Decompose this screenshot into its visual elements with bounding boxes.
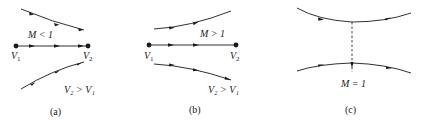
streamline-top <box>21 9 84 30</box>
v2-label: V2 <box>83 50 93 63</box>
arrow-icon <box>30 82 36 86</box>
point-v1 <box>14 44 19 49</box>
v1-label: V1 <box>144 50 154 63</box>
arrow-icon <box>193 43 199 47</box>
mach-label: M < 1 <box>27 29 53 40</box>
v1-label: V1 <box>11 50 21 63</box>
panel-b: M > 1 V1 V2 V₂ > V₁ (b) <box>144 11 240 116</box>
panel-c: M = 1 (c) <box>297 8 411 116</box>
point-v1 <box>147 43 152 48</box>
velocity-relation: V₂ > V₁ <box>64 84 95 95</box>
mach-label: M > 1 <box>199 28 225 39</box>
mach-label: M = 1 <box>340 78 366 89</box>
arrow-icon <box>193 22 199 26</box>
arrow-icon <box>225 77 231 80</box>
streamline-top <box>154 11 231 29</box>
panel-a: M < 1 V1 V2 V₂ > V₁ (a) <box>11 9 95 118</box>
streamline-top <box>297 8 411 22</box>
arrow-icon <box>168 43 174 47</box>
panel-caption: (a) <box>50 106 61 118</box>
arrow-icon <box>54 44 60 48</box>
arrow-icon <box>78 44 84 48</box>
arrow-icon <box>29 44 35 48</box>
streamline-diagram: M < 1 V1 V2 V₂ > V₁ (a) M > 1 V1 V2 <box>0 0 426 127</box>
point-v2 <box>86 44 91 49</box>
velocity-relation: V₂ > V₁ <box>208 84 239 95</box>
v2-label: V2 <box>230 50 240 63</box>
arrow-icon <box>54 23 60 26</box>
streamline-bottom <box>154 64 231 80</box>
panel-caption: (b) <box>189 104 201 116</box>
panel-caption: (c) <box>345 104 356 116</box>
point-v2 <box>234 43 239 48</box>
arrow-icon <box>78 28 84 31</box>
streamline-bottom <box>297 63 411 73</box>
